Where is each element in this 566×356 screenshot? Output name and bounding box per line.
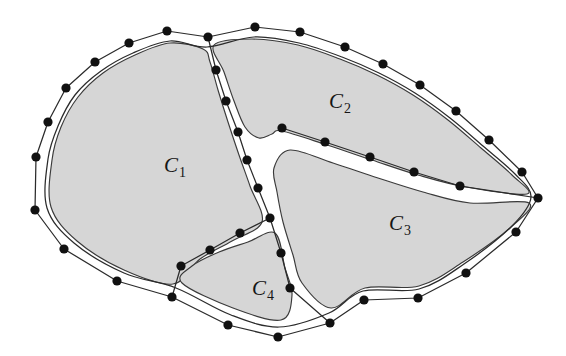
boundary-dot [31, 152, 40, 161]
boundary-dot [233, 127, 242, 136]
boundary-dot [320, 137, 329, 146]
boundary-dot [242, 155, 251, 164]
boundary-dot [413, 293, 422, 302]
boundary-dot [415, 80, 424, 89]
boundary-dot [124, 38, 133, 47]
boundary-dot [250, 22, 259, 31]
boundary-dot [112, 276, 121, 285]
boundary-dot [203, 32, 212, 41]
boundary-dot [276, 248, 285, 257]
boundary-dot [59, 244, 68, 253]
boundary-dot [221, 96, 230, 105]
boundary-dot [285, 283, 294, 292]
boundary-dot [205, 245, 214, 254]
boundary-dot [365, 152, 374, 161]
boundary-dot [30, 205, 39, 214]
boundary-dot [43, 117, 52, 126]
boundary-dot [511, 227, 520, 236]
boundary-dot [265, 213, 274, 222]
boundary-dot [235, 228, 244, 237]
boundary-dot [61, 83, 70, 92]
boundary-dot [162, 26, 171, 35]
boundary-dot [409, 167, 418, 176]
boundary-dot [325, 318, 334, 327]
boundary-dot [273, 332, 282, 341]
boundary-dot [378, 59, 387, 68]
boundary-dot [340, 42, 349, 51]
boundary-dot [295, 27, 304, 36]
boundary-dot [359, 295, 368, 304]
partition-diagram: C1C2C3C4 [0, 0, 566, 356]
boundary-dot [211, 65, 220, 74]
boundary-dot [253, 183, 262, 192]
boundary-dot [484, 135, 493, 144]
boundary-dot [455, 181, 464, 190]
boundary-dot [223, 320, 232, 329]
boundary-dot [277, 123, 286, 132]
boundary-dot [533, 193, 542, 202]
boundary-dot [176, 261, 185, 270]
boundary-dot [90, 57, 99, 66]
boundary-dot [517, 167, 526, 176]
boundary-dot [167, 292, 176, 301]
boundary-dot [461, 268, 470, 277]
boundary-dot [451, 106, 460, 115]
figure-root: C1C2C3C4 [0, 0, 566, 356]
